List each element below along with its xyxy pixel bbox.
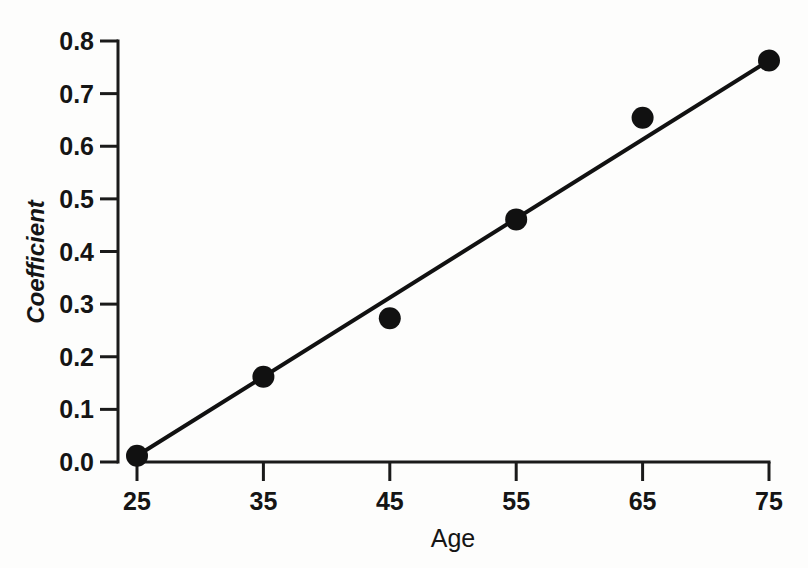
x-axis-tick-label: 25 [123,487,151,516]
y-axis-tick-label: 0.0 [24,448,94,477]
data-point [632,107,654,129]
x-axis-ticks [137,462,769,481]
data-point [505,208,527,230]
y-axis-tick-label: 0.8 [24,27,94,56]
x-axis-tick-label: 65 [629,487,657,516]
chart-figure: 0.00.10.20.30.40.50.60.70.8 253545556575… [0,0,808,568]
y-axis-tick-label: 0.1 [24,395,94,424]
data-point [252,366,274,388]
trend-line [137,60,769,455]
data-point [758,49,780,71]
x-axis-tick-label: 35 [249,487,277,516]
x-axis-tick-label: 75 [755,487,783,516]
y-axis-tick-label: 0.7 [24,79,94,108]
y-axis-tick-label: 0.6 [24,132,94,161]
y-axis-tick-label: 0.2 [24,342,94,371]
y-axis-title: Coefficient [22,200,50,324]
data-point [379,307,401,329]
y-axis-ticks [100,41,118,462]
plot-area [0,0,808,568]
x-axis-tick-label: 45 [376,487,404,516]
data-point [126,445,148,467]
x-axis-title: Age [431,524,475,553]
x-axis-tick-label: 55 [502,487,530,516]
